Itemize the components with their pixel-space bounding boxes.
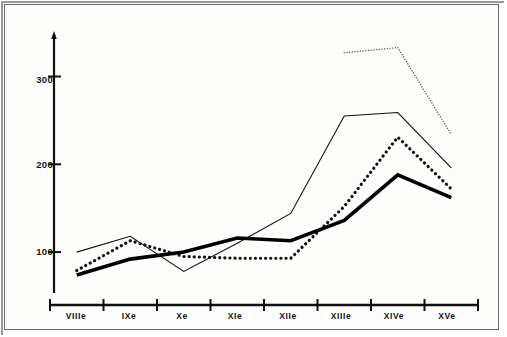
chart-figure: 300 200 100 VIIIe IXe Xe XIe XIIe XIIIe … (0, 0, 507, 337)
series-line-thick-solid (77, 175, 452, 275)
chart-plot-area (5, 5, 500, 331)
series-line-thin-solid (77, 113, 452, 272)
series-line-fine-dotted-upper (344, 48, 451, 135)
y-axis-group (48, 31, 61, 293)
y-axis-arrow-icon (51, 31, 57, 39)
scan-border-frame: 300 200 100 VIIIe IXe Xe XIe XIIe XIIIe … (4, 4, 499, 330)
series-layer (77, 48, 452, 275)
series-line-medium-dotted (77, 137, 452, 270)
x-axis-group (50, 299, 478, 311)
